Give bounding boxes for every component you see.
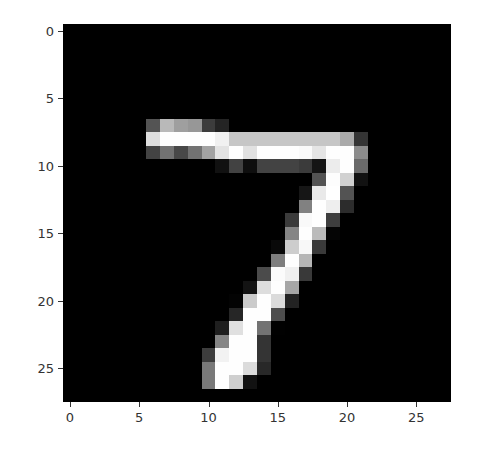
pixel-cell — [312, 227, 326, 241]
pixel-cell — [160, 294, 174, 308]
pixel-cell — [132, 105, 146, 119]
pixel-cell — [396, 186, 410, 200]
pixel-cell — [215, 173, 229, 187]
pixel-cell — [160, 200, 174, 214]
pixel-cell — [285, 200, 299, 214]
pixel-cell — [229, 213, 243, 227]
pixel-cell — [77, 173, 91, 187]
pixel-cell — [202, 213, 216, 227]
pixel-cell — [215, 146, 229, 160]
pixel-cell — [188, 119, 202, 133]
pixel-cell — [299, 240, 313, 254]
pixel-cell — [146, 146, 160, 160]
pixel-cell — [382, 51, 396, 65]
pixel-cell — [229, 321, 243, 335]
pixel-cell — [188, 146, 202, 160]
pixel-cell — [160, 146, 174, 160]
pixel-cell — [437, 146, 451, 160]
pixel-cell — [312, 321, 326, 335]
pixel-cell — [312, 65, 326, 79]
pixel-cell — [243, 24, 257, 38]
pixel-cell — [423, 159, 437, 173]
pixel-cell — [354, 119, 368, 133]
pixel-cell — [326, 240, 340, 254]
pixel-cell — [202, 254, 216, 268]
pixel-cell — [299, 159, 313, 173]
pixel-cell — [368, 119, 382, 133]
pixel-cell — [382, 321, 396, 335]
pixel-cell — [243, 240, 257, 254]
pixel-cell — [271, 389, 285, 403]
pixel-cell — [396, 92, 410, 106]
pixel-cell — [382, 389, 396, 403]
pixel-cell — [423, 146, 437, 160]
pixel-cell — [105, 159, 119, 173]
pixel-cell — [257, 38, 271, 52]
pixel-cell — [202, 308, 216, 322]
pixel-cell — [312, 213, 326, 227]
pixel-cell — [368, 24, 382, 38]
pixel-cell — [271, 24, 285, 38]
pixel-cell — [396, 375, 410, 389]
pixel-cell — [160, 240, 174, 254]
pixel-cell — [243, 281, 257, 295]
pixel-cell — [285, 227, 299, 241]
pixel-cell — [326, 65, 340, 79]
pixel-cell — [437, 51, 451, 65]
pixel-cell — [285, 105, 299, 119]
pixel-cell — [354, 200, 368, 214]
pixel-cell — [299, 254, 313, 268]
pixel-cell — [202, 186, 216, 200]
pixel-cell — [271, 294, 285, 308]
pixel-cell — [77, 186, 91, 200]
pixel-cell — [382, 105, 396, 119]
pixel-cell — [229, 38, 243, 52]
pixel-cell — [271, 240, 285, 254]
y-tick — [58, 368, 63, 369]
pixel-cell — [409, 348, 423, 362]
pixel-cell — [174, 348, 188, 362]
pixel-cell — [340, 119, 354, 133]
pixel-cell — [146, 254, 160, 268]
pixel-cell — [202, 227, 216, 241]
y-tick-label: 20 — [37, 293, 54, 308]
pixel-cell — [118, 119, 132, 133]
pixel-cell — [118, 227, 132, 241]
pixel-cell — [368, 362, 382, 376]
pixel-cell — [91, 159, 105, 173]
pixel-cell — [77, 281, 91, 295]
pixel-cell — [396, 321, 410, 335]
pixel-cell — [257, 213, 271, 227]
pixel-cell — [146, 186, 160, 200]
pixel-cell — [202, 38, 216, 52]
pixel-cell — [396, 267, 410, 281]
pixel-cell — [312, 92, 326, 106]
pixel-cell — [368, 321, 382, 335]
pixel-cell — [118, 65, 132, 79]
pixel-cell — [91, 281, 105, 295]
pixel-cell — [63, 51, 77, 65]
pixel-cell — [368, 159, 382, 173]
pixel-cell — [257, 362, 271, 376]
pixel-cell — [188, 78, 202, 92]
pixel-cell — [423, 281, 437, 295]
pixel-cell — [368, 254, 382, 268]
pixel-cell — [396, 294, 410, 308]
pixel-cell — [299, 92, 313, 106]
pixel-cell — [382, 146, 396, 160]
digit-image-heatmap — [63, 24, 451, 402]
pixel-cell — [160, 267, 174, 281]
pixel-cell — [229, 348, 243, 362]
pixel-cell — [188, 254, 202, 268]
pixel-cell — [91, 227, 105, 241]
pixel-cell — [312, 78, 326, 92]
pixel-cell — [368, 335, 382, 349]
pixel-cell — [63, 335, 77, 349]
pixel-cell — [91, 132, 105, 146]
pixel-cell — [437, 200, 451, 214]
pixel-cell — [91, 389, 105, 403]
pixel-cell — [437, 375, 451, 389]
pixel-cell — [423, 362, 437, 376]
pixel-cell — [132, 281, 146, 295]
pixel-cell — [63, 65, 77, 79]
